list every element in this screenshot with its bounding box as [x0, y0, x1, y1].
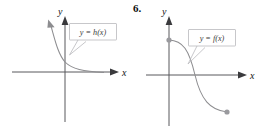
y-axis-label-right: y — [161, 6, 167, 17]
callout-tail-right — [188, 46, 205, 64]
graph-canvas-right: y = f(x) y x — [131, 0, 263, 136]
callout-h-of-x: y = h(x) — [70, 24, 117, 56]
callout-f-of-x: y = f(x) — [188, 30, 236, 65]
figure-sheet: y = h(x) y x 6. y = f(x) — [0, 0, 263, 136]
y-axis-arrowhead-left — [62, 16, 69, 25]
callout-label-right: y = f(x) — [199, 34, 225, 43]
figure-panel-right: 6. y = f(x) y x — [131, 0, 263, 136]
curve-endpoint-dot-start — [166, 37, 171, 42]
x-axis-arrowhead-left — [110, 69, 119, 76]
callout-label-left: y = h(x) — [79, 28, 107, 37]
curve-endpoint-dot-end — [224, 109, 229, 114]
figure-panel-left: y = h(x) y x — [0, 0, 131, 136]
x-axis-label-right: x — [249, 70, 255, 81]
x-axis-label-left: x — [121, 67, 127, 78]
curve-f-of-x — [169, 40, 227, 112]
curve-arrowhead-left — [47, 20, 54, 28]
y-axis-label-left: y — [57, 6, 63, 17]
graph-canvas-left: y = h(x) y x — [0, 0, 131, 136]
y-axis-arrowhead-right — [166, 16, 173, 25]
callout-tail-left — [70, 40, 87, 55]
x-axis-arrowhead-right — [238, 72, 247, 79]
